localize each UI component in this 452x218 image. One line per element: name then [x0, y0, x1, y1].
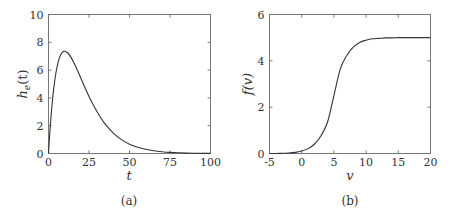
panel-a-series-line	[49, 51, 211, 153]
panel-a-y-label-arg: (t)	[15, 69, 30, 84]
panel-b-caption: (b)	[341, 194, 358, 208]
panel-b-y-tick-label: 6	[258, 9, 265, 22]
panel-a-x-tick-label: 0	[45, 156, 52, 169]
panel-a-ticks	[49, 15, 211, 154]
panel-b-series-line	[270, 38, 431, 154]
panel-b-x-tick-label: 15	[391, 156, 405, 169]
panel-b-ticks	[270, 15, 431, 154]
panel-a-x-tick-label: 50	[123, 156, 137, 169]
panel-a-y-tick-label: 8	[37, 36, 44, 49]
panel-a-x-tick-label: 25	[82, 156, 96, 169]
panel-a-y-axis-label: he(t)	[15, 69, 32, 98]
panel-b-y-tick-label: 4	[258, 55, 265, 68]
panel-b-x-tick-label: 5	[330, 156, 337, 169]
panel-a: 02550751000246810 t he(t) (a)	[15, 9, 221, 209]
panel-a-x-tick-label: 75	[163, 156, 177, 169]
panel-b-x-axis-label: v	[346, 168, 354, 183]
panel-a-y-label-base: h	[15, 90, 30, 98]
panel-b-x-tick-label: 20	[424, 156, 438, 169]
panel-b-y-tick-label: 2	[258, 101, 265, 114]
panel-b-x-tick-label: -5	[264, 156, 275, 169]
panel-a-x-tick-label: 100	[200, 156, 221, 169]
panel-a-x-axis-label: t	[126, 168, 132, 183]
panel-b-y-tick-label: 0	[258, 148, 265, 161]
panel-b-x-tick-label: 10	[359, 156, 373, 169]
panel-b-y-axis-label: f(v)	[240, 73, 255, 96]
panel-a-y-tick-label: 0	[37, 148, 44, 161]
panel-a-y-tick-label: 10	[30, 9, 44, 22]
panel-b-x-tick-label: 0	[298, 156, 305, 169]
panel-a-tick-labels: 02550751000246810	[30, 9, 222, 169]
panel-a-axes-frame	[49, 15, 211, 154]
panel-b-tick-labels: -5051015200246	[258, 9, 438, 169]
panel-a-caption: (a)	[121, 194, 138, 208]
panel-a-y-tick-label: 6	[37, 64, 44, 77]
figure: 02550751000246810 t he(t) (a) -505101520…	[0, 0, 452, 218]
panel-a-y-tick-label: 2	[37, 120, 44, 133]
panel-b-axes-frame	[270, 15, 431, 154]
panel-b: -5051015200246 v f(v) (b)	[240, 9, 438, 209]
panel-a-y-tick-label: 4	[37, 92, 44, 105]
